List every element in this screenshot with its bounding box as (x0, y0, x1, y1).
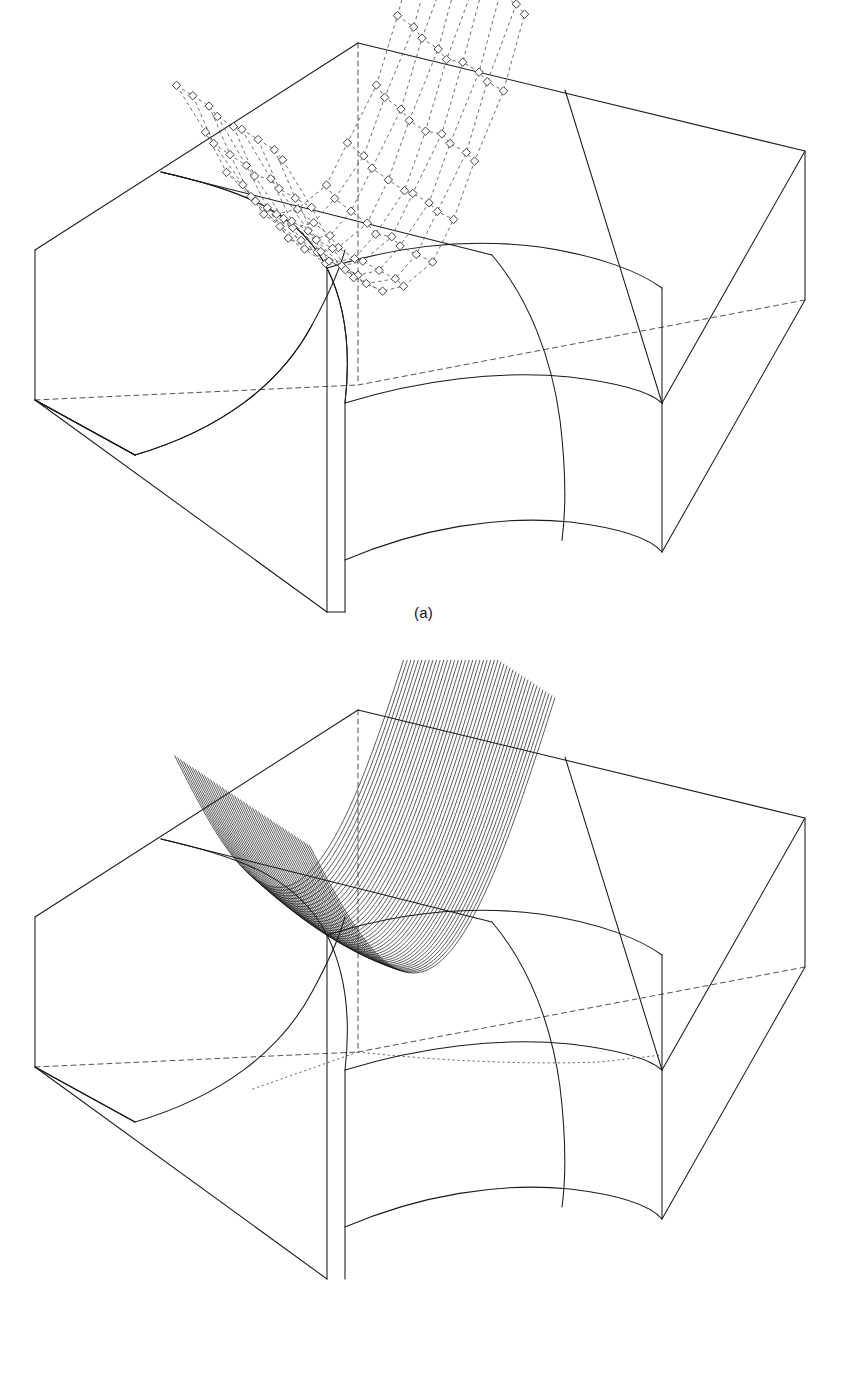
control-point-marker (449, 215, 457, 223)
control-point-marker (284, 234, 292, 242)
control-point-marker (418, 34, 426, 42)
control-point-marker (442, 55, 450, 63)
control-point-marker (520, 10, 528, 18)
control-point-marker (459, 58, 467, 66)
control-point-marker (347, 207, 355, 215)
contour-line (207, 660, 453, 917)
groove-top-curves-a (161, 172, 662, 403)
control-point-marker (275, 184, 283, 192)
contour-lines-b (174, 660, 555, 973)
groove-top-curves-b (161, 839, 662, 1070)
contour-line (282, 680, 528, 964)
contour-line (225, 660, 471, 931)
control-point-marker (291, 194, 299, 202)
control-point-marker (310, 219, 318, 227)
control-point-marker (433, 207, 441, 215)
contour-line (210, 660, 456, 919)
control-point-marker (239, 181, 247, 189)
control-point-marker (412, 250, 420, 258)
control-point-marker (205, 102, 213, 110)
groove-floor-a (327, 375, 662, 612)
control-point-marker (172, 81, 180, 89)
control-point-marker (368, 164, 376, 172)
control-point-marker (201, 128, 209, 136)
control-point-marker (360, 152, 368, 160)
block-wireframe-a (35, 43, 805, 612)
control-point-marker (384, 176, 392, 184)
figure-a-caption: (a) (0, 604, 847, 621)
control-point-marker (393, 11, 401, 19)
control-point-marker (242, 161, 250, 169)
control-point-marker (470, 157, 478, 165)
control-point-marker (229, 122, 237, 130)
control-point-marker (434, 45, 442, 53)
contour-line (189, 660, 435, 901)
contour-line (216, 660, 462, 924)
control-point-marker (397, 105, 405, 113)
control-point-marker (210, 139, 218, 147)
block-wireframe-b (35, 710, 805, 1279)
control-point-marker (483, 77, 491, 85)
figure-b: (b) (0, 660, 847, 1376)
contour-line (180, 660, 426, 893)
control-net-a (177, 0, 525, 291)
contour-line (303, 693, 549, 971)
control-point-marker (222, 168, 230, 176)
control-point-marker (499, 87, 507, 95)
control-net-row (274, 4, 516, 283)
groove-right-wall-a (492, 255, 565, 540)
control-point-marker (363, 219, 371, 227)
control-point-marker (378, 287, 386, 295)
contour-line (213, 660, 459, 922)
control-point-marker (343, 139, 351, 147)
contour-line (309, 697, 555, 973)
front-left-face-a (35, 268, 327, 612)
control-point-marker (405, 116, 413, 124)
control-point-marker (250, 172, 258, 180)
control-net-row (193, 0, 435, 228)
hidden-edges-b (35, 710, 805, 1067)
control-net-row (209, 0, 451, 240)
groove-right-wall-b (492, 922, 565, 1207)
control-point-marker (421, 127, 429, 135)
groove-left-wall-b (35, 917, 662, 1279)
control-point-marker (400, 187, 408, 195)
control-point-marker (254, 135, 262, 143)
control-point-marker (300, 245, 308, 253)
control-point-marker (270, 146, 278, 154)
control-point-marker (410, 23, 418, 31)
control-net-column (418, 0, 524, 14)
contour-line (192, 660, 438, 904)
contour-line (285, 682, 531, 965)
hidden-seam-b (250, 1052, 662, 1090)
control-point-marker (409, 189, 417, 197)
figure-b-canvas (0, 660, 847, 1376)
control-point-marker (381, 93, 389, 101)
hidden-edges-a (35, 43, 805, 400)
figure-a-canvas (0, 0, 847, 660)
control-point-marker (372, 81, 380, 89)
control-point-marker (226, 150, 234, 158)
contour-line (219, 660, 465, 926)
control-net-column (376, 85, 474, 161)
figure-a: (a) (0, 0, 847, 660)
patch-boundaries-top-a (161, 90, 662, 403)
control-point-marker (276, 222, 284, 230)
block-outline-b (35, 710, 805, 1219)
control-point-marker (238, 125, 246, 133)
control-point-marker (512, 0, 520, 8)
control-point-marker (189, 92, 197, 100)
block-outline-a (35, 43, 805, 552)
